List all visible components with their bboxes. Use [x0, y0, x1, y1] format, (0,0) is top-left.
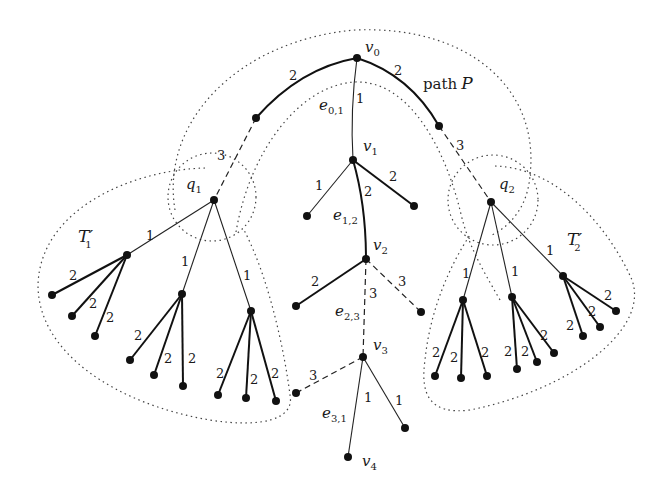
- leaf-t2: [596, 323, 604, 331]
- weight: 2: [364, 184, 372, 199]
- weight: 2: [69, 268, 77, 283]
- leaf-t1: [214, 391, 222, 399]
- label-q2: q2: [499, 175, 515, 195]
- leaf-t2: [513, 365, 521, 373]
- leaf-t1: [48, 291, 56, 299]
- edge-d-3: [463, 300, 487, 376]
- weight: 2: [106, 310, 114, 325]
- weight: 1: [395, 393, 403, 408]
- tree-diagram: v0 v1 v2 v3 v4 q1 q2 T′1 T′2 e0,1 e1,2 e…: [0, 0, 668, 496]
- node-v3-leaf-right: [401, 424, 409, 432]
- weight: 2: [588, 304, 596, 319]
- edge-v0-v1: [352, 58, 357, 160]
- leaf-t2: [612, 307, 620, 315]
- weight: 1: [462, 266, 470, 281]
- label-v4: v4: [362, 452, 377, 472]
- node-path-left: [252, 114, 260, 122]
- leaf-t2: [579, 332, 587, 340]
- node-v1-leaf-left: [303, 212, 311, 220]
- weight: 2: [450, 350, 458, 365]
- leaf-t1: [179, 382, 187, 390]
- edge-c-3: [251, 311, 276, 401]
- edge-q1-a: [127, 200, 214, 255]
- weight: 1: [364, 390, 372, 405]
- node-t1-a: [123, 251, 131, 259]
- weight: 2: [289, 68, 297, 83]
- leaf-t1: [150, 371, 158, 379]
- region-t2: [424, 166, 635, 411]
- weight: 2: [540, 328, 548, 343]
- label-t1: T′1: [78, 226, 93, 250]
- weight: 2: [389, 169, 397, 184]
- label-v0: v0: [365, 38, 380, 58]
- weight: 2: [432, 345, 440, 360]
- node-v3: [359, 353, 367, 361]
- leaf-t2: [483, 372, 491, 380]
- weight: 2: [134, 328, 142, 343]
- edges: [52, 58, 616, 457]
- weight: 3: [398, 274, 406, 289]
- leaf-t1: [68, 312, 76, 320]
- edge-q2-f: [491, 202, 563, 276]
- node-v4: [344, 453, 352, 461]
- node-path-right: [435, 122, 443, 130]
- weight: 2: [188, 351, 196, 366]
- label-path-p: pathP: [423, 73, 473, 93]
- node-v1: [349, 156, 357, 164]
- weight: 2: [311, 274, 319, 289]
- label-e23: e2,3: [335, 302, 360, 322]
- node-v1-leaf-right: [410, 202, 418, 210]
- edge-d-2: [461, 300, 463, 378]
- edge-v2-v3: [363, 259, 366, 357]
- vertex-labels: v0 v1 v2 v3 v4 q1 q2: [186, 38, 515, 472]
- node-v2-leaf-right: [417, 308, 425, 316]
- weight: 2: [164, 351, 172, 366]
- edge-d-1: [435, 300, 463, 376]
- edge-v1-v2: [353, 160, 366, 259]
- weight: 2: [394, 63, 402, 78]
- leaf-t2: [550, 349, 558, 357]
- leaf-t2: [431, 372, 439, 380]
- weight: 2: [89, 296, 97, 311]
- edge-v2-leaf-left: [296, 259, 366, 306]
- edge-name-labels: e0,1 e1,2 e2,3 e3,1: [319, 96, 360, 424]
- edge-right-q2: [439, 126, 491, 202]
- weight: 1: [315, 178, 323, 193]
- weight: 2: [250, 372, 258, 387]
- weight: 1: [181, 254, 189, 269]
- weight: 3: [456, 138, 464, 153]
- label-v3: v3: [373, 336, 388, 356]
- edge-q2-e: [491, 202, 512, 297]
- weight: 2: [521, 344, 529, 359]
- weight: 3: [369, 286, 377, 301]
- label-e01: e0,1: [319, 96, 344, 116]
- weight: 1: [243, 268, 251, 283]
- weight: 3: [309, 368, 317, 383]
- node-t1-c: [247, 307, 255, 315]
- edge-e-3: [512, 297, 554, 353]
- node-q2: [487, 198, 495, 206]
- edge-v3-leaf-left: [296, 357, 363, 393]
- edge-a-1: [52, 255, 127, 295]
- leaf-t1: [91, 332, 99, 340]
- edge-q1-b: [182, 200, 214, 294]
- regions: [38, 30, 635, 423]
- edge-v1-leaf-left: [307, 160, 353, 216]
- weight: 1: [146, 228, 154, 243]
- node-t2-d: [459, 296, 467, 304]
- weight: 2: [504, 344, 512, 359]
- edge-b-1: [130, 294, 182, 360]
- edge-q1-c: [214, 200, 251, 311]
- weight: 2: [216, 366, 224, 381]
- edge-v3-v4: [348, 357, 363, 457]
- node-t2-f: [559, 272, 567, 280]
- leaf-t1: [272, 397, 280, 405]
- weight: 2: [566, 318, 574, 333]
- node-v2-leaf-left: [292, 302, 300, 310]
- node-v3-leaf-left: [292, 389, 300, 397]
- weight: 2: [481, 345, 489, 360]
- label-q1: q1: [186, 175, 202, 195]
- node-v0: [353, 54, 361, 62]
- leaf-t2: [533, 358, 541, 366]
- weight: 1: [356, 91, 364, 106]
